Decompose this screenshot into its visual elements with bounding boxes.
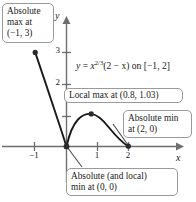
callout-absolute-min-line-1: Absolute min bbox=[128, 113, 188, 124]
y-axis-label: y bbox=[55, 10, 59, 21]
x-axis-label: x bbox=[176, 152, 180, 163]
callout-local-max-line-1: Local max at (0.8, 1.03) bbox=[69, 90, 179, 101]
curve-right-arch bbox=[67, 114, 129, 146]
x-tick-label-1: 1 bbox=[90, 150, 104, 160]
calculus-extrema-figure: y = x2/3(2 − x) on [−1, 2] x y −1 1 2 3 … bbox=[0, 0, 196, 202]
x-axis-arrowhead bbox=[176, 143, 184, 151]
point-origin-min bbox=[64, 144, 70, 150]
y-tick-label-3: 3 bbox=[50, 45, 60, 55]
curve-left-branch bbox=[35, 52, 66, 146]
callout-absolute-min-line-2: at (2, 0) bbox=[128, 124, 188, 135]
callout-absolute-min: Absolute min at (2, 0) bbox=[123, 110, 192, 138]
callout-origin-min-line-2: min at (0, 0) bbox=[71, 182, 174, 193]
callout-absolute-max: Absolute max at (−1, 3) bbox=[2, 3, 54, 43]
y-axis-arrowhead bbox=[63, 16, 71, 24]
callout-absolute-max-line-1: Absolute bbox=[7, 6, 50, 17]
x-tick-label-neg1: −1 bbox=[26, 150, 42, 160]
callout-origin-min: Absolute (and local) min at (0, 0) bbox=[66, 168, 178, 196]
point-absolute-min bbox=[126, 144, 131, 149]
leader-line-origin-min bbox=[68, 148, 83, 168]
x-tick-label-2: 2 bbox=[121, 150, 135, 160]
callout-origin-min-line-1: Absolute (and local) bbox=[71, 171, 174, 182]
equation-rest: (2 − x) on [−1, 2] bbox=[103, 60, 170, 71]
equation-equals: = bbox=[80, 60, 90, 71]
callout-local-max: Local max at (0.8, 1.03) bbox=[64, 88, 183, 103]
point-absolute-max bbox=[33, 50, 38, 55]
callout-absolute-max-line-3: (−1, 3) bbox=[7, 28, 50, 39]
equation-label: y = x2/3(2 − x) on [−1, 2] bbox=[76, 60, 170, 71]
point-local-max bbox=[89, 111, 94, 116]
y-tick-label-2: 2 bbox=[50, 77, 60, 87]
callout-absolute-max-line-2: max at bbox=[7, 17, 50, 28]
equation-exponent: 2/3 bbox=[95, 59, 103, 66]
